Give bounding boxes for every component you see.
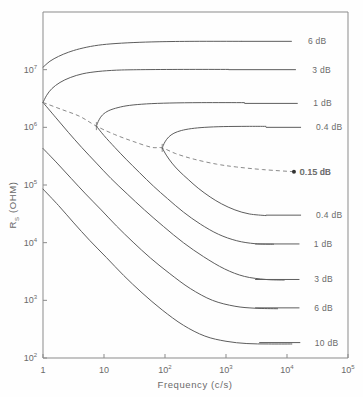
- label-noise-contour-04db-upper: 0.4 dB: [316, 122, 342, 132]
- y-axis-title: RS (OHM): [7, 182, 20, 229]
- x-tick-label-2-mantissa: 10: [158, 365, 168, 375]
- curve-noise-contour-10db-lower: [43, 189, 292, 344]
- curve-noise-contour-04db-upper: [162, 126, 266, 148]
- label-leader-lines: [229, 41, 302, 342]
- x-tick-label-4-mantissa: 10: [280, 365, 290, 375]
- x-tick-label-5-mantissa: 10: [341, 365, 351, 375]
- plot-frame: [43, 12, 348, 358]
- y-tick-label-4: 106: [24, 121, 38, 132]
- x-tick-label-1-mantissa: 10: [99, 365, 109, 375]
- noise-figure-contour-chart: 6 dB3 dB1 dB0.4 dB0.15 dB0.4 dB1 dB3 dB6…: [0, 0, 363, 397]
- y-tick-label-3-mantissa: 10: [24, 180, 34, 190]
- label-noise-contour-04db-lower: 0.4 dB: [316, 210, 342, 220]
- x-tick-label-1: 10: [99, 365, 109, 375]
- contour-curves: [43, 41, 294, 344]
- y-tick-label-3: 105: [24, 179, 38, 190]
- x-tick-label-5: 105: [341, 364, 355, 375]
- x-tick-label-3-exponent: 3: [229, 364, 233, 370]
- label-noise-contour-6db-lower: 6 dB: [314, 303, 333, 313]
- y-tick-label-1-mantissa: 10: [24, 295, 34, 305]
- y-tick-label-0-exponent: 2: [34, 352, 38, 358]
- marker-optimum-source-resistance-point: [292, 170, 296, 174]
- x-tick-label-3: 103: [219, 364, 233, 375]
- y-tick-label-1-exponent: 3: [34, 294, 38, 300]
- curve-noise-contour-3db-upper: [43, 69, 229, 102]
- x-tick-label-3-mantissa: 10: [219, 365, 229, 375]
- label-noise-contour-3db-upper: 3 dB: [312, 65, 331, 75]
- y-tick-label-3-exponent: 5: [34, 179, 38, 185]
- curve-noise-contour-1db-upper: [96, 103, 244, 126]
- curve-noise-contour-04db-lower: [162, 148, 266, 216]
- curve-noise-contour-6db-upper: [43, 41, 242, 67]
- y-tick-label-1: 103: [24, 294, 38, 305]
- y-axis-title-text: RS (OHM): [7, 182, 20, 229]
- curve-noise-contour-6db-lower: [43, 148, 278, 308]
- x-tick-label-0: 1: [40, 365, 45, 375]
- y-tick-label-5-mantissa: 10: [24, 65, 34, 75]
- label-noise-contour-1db-upper: 1 dB: [313, 98, 332, 108]
- x-axis-ticks: [43, 354, 348, 358]
- label-noise-contour-3db-lower: 3 dB: [314, 274, 333, 284]
- x-tick-label-4-exponent: 4: [290, 364, 294, 370]
- y-tick-label-5: 107: [24, 64, 38, 75]
- label-noise-contour-1db-lower: 1 dB: [314, 239, 333, 249]
- annotation-markers: [292, 170, 296, 174]
- x-axis-tick-labels: 110102103104105: [40, 364, 355, 375]
- curve-noise-contour-1db-lower: [96, 126, 273, 244]
- contour-labels: 6 dB3 dB1 dB0.4 dB0.15 dB0.4 dB1 dB3 dB6…: [299, 36, 342, 347]
- y-tick-label-0: 102: [24, 352, 38, 363]
- plot-border: [43, 12, 348, 358]
- y-tick-label-5-exponent: 7: [34, 64, 38, 70]
- x-tick-label-2: 102: [158, 364, 172, 375]
- y-axis-title-unit-text: (OHM): [7, 182, 18, 214]
- y-tick-label-4-mantissa: 10: [24, 122, 34, 132]
- y-tick-label-0-mantissa: 10: [24, 353, 34, 363]
- x-tick-label-2-exponent: 2: [168, 364, 172, 370]
- y-tick-label-2: 104: [24, 237, 38, 248]
- y-axis-tick-labels: 102103104105106107: [24, 64, 38, 363]
- x-tick-label-5-exponent: 5: [351, 364, 355, 370]
- label-noise-contour-6db-upper: 6 dB: [308, 36, 327, 46]
- curve-noise-contour-3db-lower: [43, 102, 284, 280]
- x-tick-label-4: 104: [280, 364, 294, 375]
- label-noise-contour-10db-lower: 10 dB: [315, 338, 339, 348]
- y-tick-label-4-exponent: 6: [34, 121, 38, 127]
- chart-svg: 6 dB3 dB1 dB0.4 dB0.15 dB0.4 dB1 dB3 dB6…: [0, 0, 363, 397]
- x-axis-title-text: Frequency (c/s): [158, 379, 233, 390]
- x-axis-title: Frequency (c/s): [158, 379, 233, 390]
- y-tick-label-2-exponent: 4: [34, 237, 38, 243]
- y-axis-title-base: R: [7, 221, 18, 228]
- y-tick-label-2-mantissa: 10: [24, 238, 34, 248]
- label-optimum-source-resistance-point: 0.15 dB: [300, 167, 331, 177]
- y-axis-ticks: [43, 70, 47, 358]
